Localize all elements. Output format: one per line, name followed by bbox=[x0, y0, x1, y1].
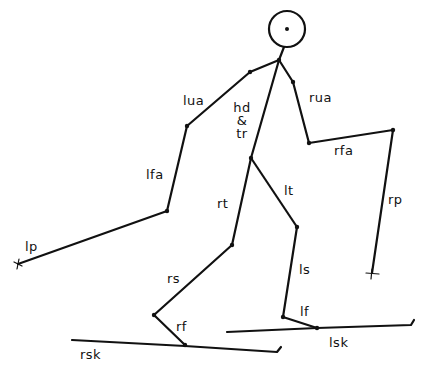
segment-rs bbox=[154, 245, 232, 315]
label-rs: rs bbox=[167, 272, 180, 285]
ski-rsk bbox=[72, 340, 281, 352]
label-lsk: lsk bbox=[329, 336, 348, 349]
label-rua: rua bbox=[309, 91, 332, 104]
label-hd-tr: hd & tr bbox=[231, 101, 253, 140]
right-pole-tip-cross-2 bbox=[371, 269, 372, 279]
label-ls: ls bbox=[299, 263, 310, 276]
skier-figure bbox=[0, 0, 424, 373]
ski-lsk bbox=[227, 320, 414, 332]
segment-hd-tr bbox=[251, 60, 279, 158]
segment-lfa bbox=[167, 126, 187, 211]
segment-ls bbox=[283, 227, 297, 317]
label-rfa: rfa bbox=[334, 144, 353, 157]
segment-rt bbox=[232, 158, 251, 245]
label-lt: lt bbox=[284, 184, 294, 197]
segment-rfa bbox=[309, 130, 393, 143]
segment-lp bbox=[18, 211, 167, 264]
label-rt: rt bbox=[217, 197, 228, 210]
label-lf: lf bbox=[300, 305, 309, 318]
label-rsk: rsk bbox=[80, 348, 101, 361]
segment-rua bbox=[293, 82, 309, 143]
label-lua: lua bbox=[183, 94, 204, 107]
right-pole-tip-cross bbox=[366, 273, 379, 274]
label-lp: lp bbox=[25, 240, 38, 253]
segment-rua-shoulder bbox=[279, 60, 293, 82]
segment-lua-shoulder bbox=[250, 60, 279, 72]
label-tr: tr bbox=[231, 127, 253, 140]
label-rf: rf bbox=[176, 320, 187, 333]
label-lfa: lfa bbox=[146, 168, 164, 181]
label-rp: rp bbox=[388, 193, 403, 206]
head-center-dot bbox=[285, 27, 289, 31]
